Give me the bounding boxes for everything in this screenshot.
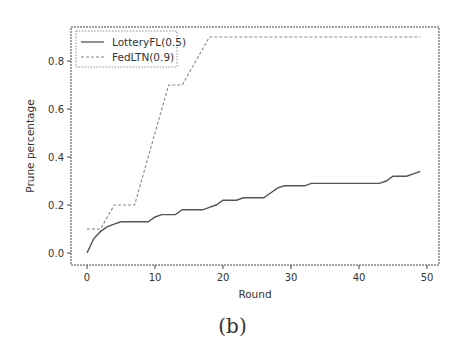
y-tick-label: 0.6 bbox=[48, 104, 64, 115]
x-tick-label: 20 bbox=[217, 272, 230, 283]
y-axis-label: Prune percentage bbox=[24, 99, 36, 192]
line-chart: 01020304050 0.00.20.40.60.8 Round Prune … bbox=[0, 0, 465, 359]
y-axis: 0.00.20.40.60.8 bbox=[48, 56, 71, 259]
y-tick-label: 0.2 bbox=[48, 200, 64, 211]
y-tick-label: 0.8 bbox=[48, 56, 64, 67]
legend-label-lotteryfl: LotteryFL(0.5) bbox=[112, 36, 186, 48]
series-line-lotteryfl-0-5 bbox=[87, 171, 420, 253]
x-axis: 01020304050 bbox=[84, 265, 434, 283]
y-tick-label: 0.4 bbox=[48, 152, 64, 163]
x-tick-label: 30 bbox=[285, 272, 298, 283]
x-tick-label: 50 bbox=[421, 272, 434, 283]
x-tick-label: 10 bbox=[149, 272, 162, 283]
legend-label-fedltn: FedLTN(0.9) bbox=[112, 51, 174, 63]
figure-caption: (b) bbox=[0, 314, 465, 338]
x-tick-label: 0 bbox=[84, 272, 90, 283]
legend: LotteryFL(0.5) FedLTN(0.9) bbox=[76, 31, 186, 67]
y-tick-label: 0.0 bbox=[48, 248, 64, 259]
x-tick-label: 40 bbox=[353, 272, 366, 283]
plot-area bbox=[87, 37, 420, 253]
x-axis-label: Round bbox=[238, 288, 271, 300]
